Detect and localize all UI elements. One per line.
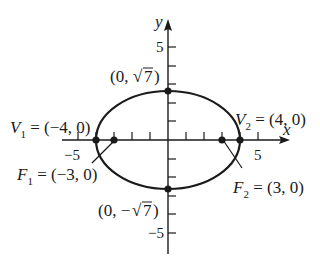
radical-icon-bottom: √ [132,201,142,220]
y-tick-label-5: 5 [156,39,164,55]
svg-text:(0,: (0, [110,67,128,86]
x-tick-label-5: 5 [254,147,262,163]
covertex-top-dot [164,87,171,94]
vertex-v1-dot [92,136,99,143]
y-axis-label: y [153,12,163,31]
focus-f1-label: F1 = (−3, 0) [16,165,97,187]
covertex-bottom-dot [164,185,171,192]
radical-icon: √ [133,67,143,86]
covertex-bottom-label: (0, − √ 7 ) [98,201,159,220]
focus-f2-dot [218,136,225,143]
y-tick-label-neg5: −5 [148,225,164,241]
x-tick-label-neg5: −5 [64,147,80,163]
vertex-v2-label: V2 = (4, 0) [235,110,306,132]
ellipse-diagram: y x −5 5 5 −5 V1 = (−4, 0) V2 = (4, 0) F… [0,0,320,258]
y-axis [164,19,176,254]
covertex-top-label: (0, √ 7 ) [110,67,160,86]
focus-f1-dot [110,136,117,143]
svg-text:(0, −: (0, − [98,201,130,220]
svg-text:): ) [153,201,159,220]
svg-text:): ) [154,67,160,86]
vertex-v1-label: V1 = (−4, 0) [10,118,90,140]
svg-text:7: 7 [143,201,152,220]
svg-text:7: 7 [144,67,153,86]
focus-f2-label: F2 = (3, 0) [232,178,304,200]
vertex-v2-dot [236,136,243,143]
